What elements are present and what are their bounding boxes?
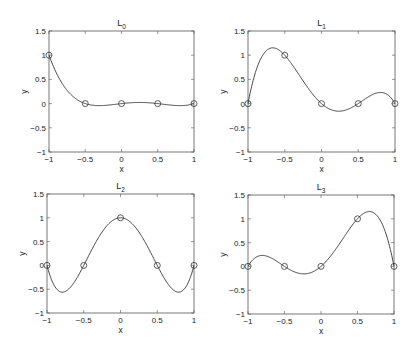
x-tick-label: 1 — [192, 316, 197, 325]
x-axis-label: x — [119, 164, 124, 174]
y-tick-label: 0.5 — [35, 75, 47, 84]
x-tick-label: −0.5 — [77, 155, 93, 164]
x-axis-label: x — [319, 326, 324, 336]
x-axis-label: x — [118, 325, 123, 335]
y-tick-label: −0.5 — [30, 124, 46, 133]
y-axis-label: y — [218, 252, 228, 257]
subplot-L0: −1−0.500.51−1−0.500.511.5xyL0 — [19, 18, 197, 174]
x-tick-label: 0.5 — [353, 155, 365, 164]
x-tick-label: 0.5 — [352, 317, 364, 326]
basis-curve — [248, 212, 394, 274]
plot-title: L3 — [317, 182, 326, 194]
x-tick-label: 0 — [319, 155, 324, 164]
x-tick-label: 1 — [392, 317, 397, 326]
y-tick-label: 1 — [241, 215, 246, 224]
y-tick-label: −0.5 — [229, 286, 245, 295]
x-tick-label: 1 — [192, 155, 197, 164]
y-tick-label: 1 — [241, 51, 246, 60]
y-tick-label: −1 — [35, 309, 45, 318]
y-tick-label: 0 — [42, 100, 47, 109]
plot-title: L1 — [317, 18, 326, 30]
x-tick-label: 0 — [118, 316, 123, 325]
y-tick-label: 0.5 — [234, 239, 246, 248]
y-tick-label: −0.5 — [229, 124, 245, 133]
x-tick-label: −0.5 — [76, 316, 92, 325]
y-tick-label: −1 — [236, 310, 246, 319]
y-tick-label: 1 — [40, 214, 45, 223]
x-tick-label: 0.5 — [152, 316, 164, 325]
axes-box — [248, 195, 394, 314]
y-tick-label: −0.5 — [28, 285, 44, 294]
x-tick-label: 1 — [393, 155, 398, 164]
y-tick-label: −1 — [236, 148, 246, 157]
y-axis-label: y — [218, 89, 228, 94]
y-axis-label: y — [19, 89, 29, 94]
x-tick-label: 0 — [119, 155, 124, 164]
y-tick-label: −1 — [37, 148, 47, 157]
x-tick-label: −0.5 — [277, 317, 293, 326]
y-tick-label: 1.5 — [234, 191, 246, 200]
x-tick-label: 0 — [319, 317, 324, 326]
basis-curve — [248, 48, 395, 111]
y-tick-label: 1.5 — [234, 27, 246, 36]
y-axis-label: y — [17, 251, 27, 256]
y-tick-label: 0.5 — [234, 75, 246, 84]
axes-box — [47, 194, 194, 313]
x-tick-label: −0.5 — [277, 155, 293, 164]
basis-curve — [49, 55, 194, 105]
x-axis-label: x — [319, 164, 324, 174]
y-tick-label: 1.5 — [35, 27, 47, 36]
axes-box — [248, 31, 395, 152]
plot-title: L0 — [117, 18, 126, 30]
y-tick-label: 1.5 — [33, 190, 45, 199]
basis-curve — [47, 218, 194, 292]
subplot-L1: −1−0.500.51−1−0.500.511.5xyL1 — [218, 18, 398, 174]
plot-title: L2 — [116, 181, 125, 193]
subplot-L3: −1−0.500.51−1−0.500.511.5xyL3 — [218, 182, 397, 336]
axes-box — [49, 31, 194, 152]
figure: −1−0.500.51−1−0.500.511.5xyL0 −1−0.500.5… — [0, 0, 418, 350]
x-tick-label: 0.5 — [152, 155, 164, 164]
y-tick-label: 0.5 — [33, 238, 45, 247]
subplot-L2: −1−0.500.51−1−0.500.511.5xyL2 — [17, 181, 197, 335]
